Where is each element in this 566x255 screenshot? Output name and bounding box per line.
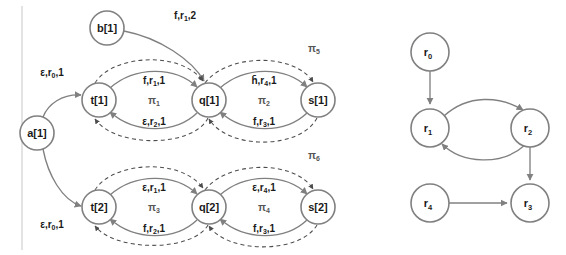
edge-label-a1-to-t2: ε,r0,1 [40,219,64,231]
edge-a1-to-t1 [43,95,81,117]
node-s1-label: s[1] [308,94,328,106]
node-r3[interactable]: r3 [511,184,549,222]
pi-label-1: π1 [148,94,160,107]
node-r1[interactable]: r1 [411,109,449,147]
node-r2[interactable]: r2 [511,109,549,147]
edge-label-t1-to-q1: f,r1,1 [143,75,166,87]
node-a1[interactable]: a[1] [20,116,54,150]
node-b1[interactable]: b[1] [90,11,124,45]
edge-label-s1-to-q1: f,r3,1 [253,116,276,128]
edge-label-a1-to-t1: ε,r0,1 [40,67,64,79]
edge-a1-to-t2 [43,149,81,206]
node-t1-label: t[1] [90,94,107,106]
pi-label-2: π2 [258,94,270,107]
pi-label-5: π5 [308,42,320,55]
node-q2[interactable]: q[2] [192,190,226,224]
edge-r2-to-r1 [442,144,525,160]
node-q1[interactable]: q[1] [192,83,226,117]
pi-label-4: π4 [258,201,270,214]
diagram-figure: a[1] b[1] t[1] q[1] s[1] t[2] q[2] s[2] … [0,0,566,255]
edge-label-q2-to-s2: ε,r4,1 [252,182,276,194]
pi-label-6: π6 [308,149,320,162]
edge-label-t2-to-q2: ε,r1,1 [142,182,166,194]
edge-label-b1-to-q1: f,r1,2 [174,10,197,22]
node-s1[interactable]: s[1] [301,83,335,117]
node-s2-label: s[2] [308,201,328,213]
node-q1-label: q[1] [199,94,220,106]
node-r0[interactable]: r0 [411,33,449,71]
edge-r1-to-r2 [444,99,523,116]
pi-label-3: π3 [148,201,160,214]
node-a1-label: a[1] [27,127,47,139]
node-r4[interactable]: r4 [411,184,449,222]
edge-label-q1-to-s1: h̄,r4,1 [251,74,276,86]
node-q2-label: q[2] [199,201,220,213]
edge-label-q1-to-t1: ε,r2,1 [142,116,166,128]
node-t2-label: t[2] [90,201,107,213]
node-s2[interactable]: s[2] [301,190,335,224]
node-t1[interactable]: t[1] [82,83,116,117]
node-t2[interactable]: t[2] [82,190,116,224]
edge-label-q2-to-t2: f,r2,1 [143,223,166,235]
diagram-canvas: a[1] b[1] t[1] q[1] s[1] t[2] q[2] s[2] … [0,0,566,255]
edge-label-s2-to-q2: f,r3,1 [253,223,276,235]
node-b1-label: b[1] [97,22,118,34]
